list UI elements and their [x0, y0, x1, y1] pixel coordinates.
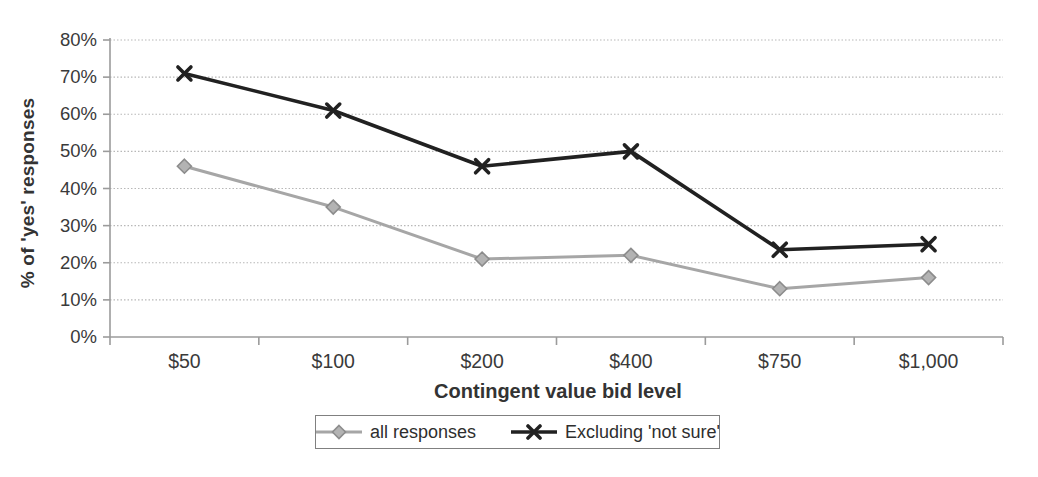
y-tick-label: 50%	[60, 140, 97, 161]
x-axis-title: Contingent value bid level	[434, 380, 682, 403]
y-tick-label: 30%	[60, 215, 97, 236]
plot-area: 0%10%20%30%40%50%60%70%80%$50$100$200$40…	[0, 0, 1038, 477]
legend-label-excluding-not-sure: Excluding 'not sure'	[565, 422, 720, 443]
x-marker-icon	[510, 424, 558, 440]
diamond-marker	[773, 282, 787, 296]
y-tick-label: 0%	[70, 326, 97, 347]
y-tick-label: 10%	[60, 289, 97, 310]
diamond-marker	[177, 159, 191, 173]
legend-label-all-responses: all responses	[370, 422, 476, 443]
diamond-marker	[624, 248, 638, 262]
y-tick-label: 70%	[60, 66, 97, 87]
x-tick-label: $50	[168, 350, 201, 372]
legend: all responses Excluding 'not sure'	[315, 415, 720, 449]
y-axis-title: % of 'yes' responses	[17, 98, 39, 288]
series-excluding-not-sure-	[178, 67, 935, 256]
x-tick-label: $100	[312, 350, 356, 372]
diamond-marker	[922, 271, 936, 285]
series-all-responses	[177, 159, 935, 296]
y-tick-label: 80%	[60, 29, 97, 50]
x-tick-label: $750	[758, 350, 802, 372]
series-line	[184, 166, 928, 289]
y-tick-label: 20%	[60, 252, 97, 273]
line-chart-figure: 0%10%20%30%40%50%60%70%80%$50$100$200$40…	[0, 0, 1038, 477]
x-tick-label: $400	[609, 350, 653, 372]
legend-item-excluding-not-sure: Excluding 'not sure'	[510, 422, 720, 443]
x-tick-label: $200	[460, 350, 504, 372]
x-tick-label: $1,000	[899, 350, 959, 372]
diamond-marker-icon	[315, 424, 363, 440]
diamond-marker	[326, 200, 340, 214]
diamond-marker	[475, 252, 489, 266]
legend-item-all-responses: all responses	[315, 422, 476, 443]
y-tick-label: 40%	[60, 178, 97, 199]
series-line	[184, 73, 928, 249]
y-tick-label: 60%	[60, 103, 97, 124]
diamond-marker	[332, 426, 345, 439]
